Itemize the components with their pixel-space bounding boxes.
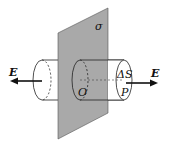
left-cylinder xyxy=(33,60,60,100)
left-field-label: E xyxy=(8,66,18,79)
origin-label: O xyxy=(78,86,87,99)
gauss-plane-diagram: σ E E O ΔS P xyxy=(0,0,169,144)
area-label: ΔS xyxy=(116,68,133,81)
point-label: P xyxy=(120,86,129,99)
plane-sigma-label: σ xyxy=(95,20,103,33)
right-field-label: E xyxy=(150,67,160,80)
diagram-canvas: σ E E O ΔS P xyxy=(0,0,169,144)
